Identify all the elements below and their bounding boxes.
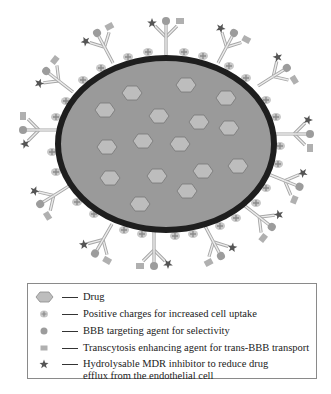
legend-item-drug: Drug xyxy=(28,290,105,304)
legend-item-transcytosis-agent: Transcytosis enhancing agent for trans-B… xyxy=(28,341,309,355)
nanoparticle-core xyxy=(58,58,274,230)
nanoparticle-diagram xyxy=(0,0,331,270)
legend-item-mdr-inhibitor: Hydrolysable MDR inhibitor to reduce dru… xyxy=(28,357,268,371)
legend-connector xyxy=(62,297,78,298)
targeting-circle-icon xyxy=(34,324,56,338)
legend-label: Transcytosis enhancing agent for trans-B… xyxy=(83,342,309,354)
legend-connector xyxy=(62,364,78,365)
legend-label-continued: efflux from the endothelial cell xyxy=(83,370,213,381)
legend-connector xyxy=(62,331,78,332)
legend-label: Drug xyxy=(83,291,105,303)
legend-label: Positive charges for increased cell upta… xyxy=(83,308,257,320)
legend-item-targeting-agent: BBB targeting agent for selectivity xyxy=(28,324,230,338)
legend-label: BBB targeting agent for selectivity xyxy=(83,325,230,337)
transcytosis-square-icon xyxy=(34,341,56,355)
positive-charge-icon xyxy=(34,307,56,321)
legend-connector xyxy=(62,314,78,315)
legend-connector xyxy=(62,348,78,349)
legend-label: Hydrolysable MDR inhibitor to reduce dru… xyxy=(83,358,268,370)
drug-hexagon-icon xyxy=(34,290,56,304)
legend-item-positive-charge: Positive charges for increased cell upta… xyxy=(28,307,257,321)
mdr-star-icon xyxy=(34,357,56,371)
legend: Drug Positive charges for increased cell… xyxy=(27,283,317,379)
